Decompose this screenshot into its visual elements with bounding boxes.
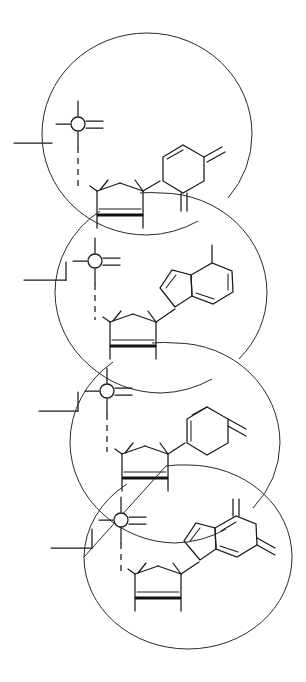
residue-3-group bbox=[39, 342, 280, 543]
phosphorus-atom-circle bbox=[88, 254, 102, 268]
residue-2-group bbox=[24, 193, 267, 393]
base-inner-double-2 bbox=[192, 407, 207, 415]
glycosidic-bond bbox=[168, 443, 185, 454]
glycosidic-bond bbox=[143, 181, 160, 191]
sugar-stub-o-up bbox=[115, 449, 122, 454]
residue-2-phosphate bbox=[73, 238, 120, 284]
residue-4-envelope bbox=[84, 465, 292, 649]
sugar-stub-o-up bbox=[103, 317, 110, 322]
phosphorus-atom-circle bbox=[71, 117, 85, 131]
residue-1-base-pyrimidine bbox=[163, 145, 225, 211]
base-ring-hexagon bbox=[163, 145, 204, 193]
residue-1-phosphate bbox=[56, 101, 103, 147]
residue-1-group bbox=[14, 33, 252, 235]
sugar-stub-o-up bbox=[90, 186, 97, 191]
figure-canvas bbox=[0, 0, 306, 682]
phosphorus-atom-circle bbox=[114, 513, 128, 527]
sugar-stub-o-up bbox=[128, 569, 135, 574]
residue-3-phosphate bbox=[85, 368, 132, 414]
residue-2-sugar bbox=[103, 309, 175, 359]
residue-3-envelope-lower bbox=[70, 443, 226, 543]
residue-4-group bbox=[51, 465, 292, 649]
residue-2-envelope-lower bbox=[55, 293, 212, 393]
glycosidic-bond bbox=[181, 562, 199, 574]
residue-2-base-purine bbox=[160, 245, 233, 307]
residue-1-envelope bbox=[42, 33, 252, 198]
residue-1-sugar bbox=[90, 180, 160, 228]
base-inner-double-1 bbox=[167, 150, 183, 159]
residue-3-envelope bbox=[70, 342, 280, 508]
residue-3-base-pyrimidine bbox=[187, 407, 246, 455]
residue-1-envelope-lower bbox=[42, 134, 198, 235]
residue-4-sugar bbox=[128, 562, 199, 611]
glycosidic-bond bbox=[156, 309, 175, 322]
residue-4-base-purine bbox=[184, 499, 275, 560]
phosphorus-atom-circle bbox=[100, 384, 114, 398]
chemical-structure-diagram bbox=[0, 0, 306, 682]
